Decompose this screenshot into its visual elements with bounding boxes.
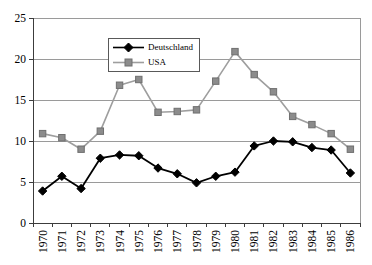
- y-axis-tick-label: 5: [20, 176, 26, 188]
- deutschland-line-diamond-icon: [112, 42, 145, 53]
- x-axis-tick-label: 1980: [229, 230, 241, 253]
- x-axis-tick-label: 1973: [94, 230, 106, 253]
- x-axis-tick-label: 1971: [56, 230, 68, 253]
- x-axis-tick-label: 1975: [133, 230, 145, 253]
- y-axis-tick-label: 15: [15, 94, 27, 106]
- x-axis-tick-label: 1972: [75, 230, 87, 253]
- x-axis-tick-label: 1978: [191, 230, 203, 253]
- y-axis-tick-label: 10: [15, 135, 27, 147]
- chart-legend: Deutschland USA: [108, 38, 200, 72]
- line-chart: 0510152025197019711972197319741975197619…: [0, 0, 372, 265]
- x-axis-tick-label: 1986: [344, 230, 356, 253]
- legend-label-deutschland: Deutschland: [148, 42, 193, 53]
- y-axis-tick-label: 20: [15, 53, 27, 65]
- x-axis-tick-label: 1985: [325, 230, 337, 253]
- y-axis-tick-label: 25: [15, 12, 27, 24]
- x-axis-tick-label: 1981: [248, 230, 260, 253]
- x-axis-tick-label: 1974: [114, 230, 126, 253]
- x-axis-tick-label: 1982: [267, 230, 279, 253]
- x-axis-tick-label: 1983: [287, 230, 299, 253]
- x-axis-tick-label: 1984: [306, 230, 318, 253]
- usa-line-square-icon: [112, 57, 145, 68]
- legend-item-deutschland: Deutschland: [112, 41, 196, 54]
- legend-item-usa: USA: [112, 56, 196, 69]
- x-axis-tick-label: 1979: [210, 230, 222, 253]
- x-axis-tick-label: 1976: [152, 230, 164, 253]
- y-axis-tick-label: 0: [20, 217, 26, 229]
- x-axis-tick-label: 1977: [171, 230, 183, 253]
- legend-label-usa: USA: [148, 57, 166, 68]
- x-axis-tick-label: 1970: [37, 230, 49, 253]
